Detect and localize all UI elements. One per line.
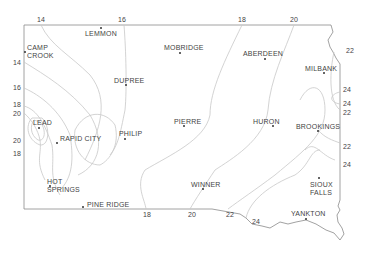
contour-value-label: 24 <box>343 100 351 108</box>
city-label: PINE RIDGE <box>87 201 129 209</box>
city-marker <box>100 27 102 29</box>
contour-value-label: 22 <box>343 109 351 117</box>
city-marker <box>318 177 320 179</box>
city-label: HOT SPRINGS <box>47 178 80 194</box>
city-marker <box>24 51 26 53</box>
contour-value-label: 16 <box>118 16 126 24</box>
city-marker <box>56 142 58 144</box>
state-border <box>24 25 344 240</box>
contour-value-label: 22 <box>343 143 351 151</box>
contour-value-label: 24 <box>343 161 351 169</box>
city-label: DUPREE <box>114 77 144 85</box>
city-marker <box>305 218 307 220</box>
contour-value-label: 14 <box>37 16 45 24</box>
contour-value-label: 20 <box>13 137 21 145</box>
contour-value-label: 18 <box>143 211 151 219</box>
contour-value-label: 18 <box>13 101 21 109</box>
city-label: MILBANK <box>305 65 337 73</box>
contour-value-label: 20 <box>188 211 196 219</box>
contour-value-label: 22 <box>226 211 234 219</box>
city-label: CAMP CROOK <box>27 44 54 60</box>
city-label: PIERRE <box>174 118 201 126</box>
city-marker <box>264 58 266 60</box>
contour-value-label: 24 <box>343 86 351 94</box>
city-label: MOBRIDGE <box>164 44 204 52</box>
city-label: HURON <box>253 118 280 126</box>
contour-value-label: 24 <box>252 218 260 226</box>
contour-value-label: 20 <box>290 16 298 24</box>
contour-value-label: 18 <box>13 150 21 158</box>
contour-value-label: 22 <box>346 47 354 55</box>
city-label: LEMMON <box>85 30 117 38</box>
city-marker <box>179 52 181 54</box>
city-label: RAPID CITY <box>60 135 101 143</box>
contour-value-label: 16 <box>13 84 21 92</box>
contour-value-label: 20 <box>13 110 21 118</box>
city-label: BROOKINGS <box>296 123 340 131</box>
city-marker <box>82 206 84 208</box>
city-label: ABERDEEN <box>243 50 283 58</box>
city-label: SIOUX FALLS <box>310 181 333 197</box>
city-label: PHILIP <box>119 130 142 138</box>
contour-value-label: 18 <box>238 16 246 24</box>
city-label: LEAD <box>33 119 52 127</box>
city-label: YANKTON <box>291 210 326 218</box>
city-label: WINNER <box>191 181 221 189</box>
city-marker <box>38 127 40 129</box>
city-marker <box>124 138 126 140</box>
contour-value-label: 14 <box>13 59 21 67</box>
